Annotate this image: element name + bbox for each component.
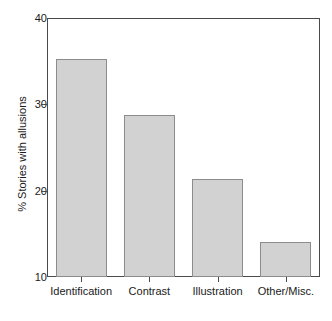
x-tick-label-contrast: Contrast [129,285,171,297]
bar-illustration [192,179,243,277]
bars-layer: Identification Contrast Illustration Oth… [0,0,332,321]
bar-contrast [124,115,175,277]
bar-chart: % Stories with allusions 40 30 20 10 Ide… [0,0,332,321]
x-tick-mark-identification [81,277,82,282]
x-tick-label-identification: Identification [50,285,112,297]
bar-other-misc [260,242,311,277]
x-tick-label-illustration: Illustration [193,285,243,297]
x-tick-mark-other-misc [286,277,287,282]
x-tick-label-other-misc: Other/Misc. [258,285,314,297]
bar-identification [56,59,107,277]
x-tick-mark-illustration [218,277,219,282]
x-tick-mark-contrast [149,277,150,282]
